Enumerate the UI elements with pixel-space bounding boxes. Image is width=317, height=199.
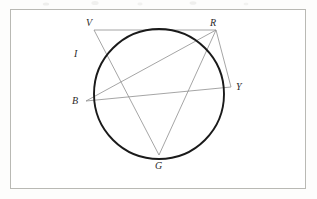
vertex-label-b: B <box>72 96 78 106</box>
vertex-label-v: V <box>86 18 92 28</box>
chord-ry <box>216 30 231 87</box>
page-canvas: VRBYGI <box>0 0 317 199</box>
vertex-label-y: Y <box>236 82 242 92</box>
vertex-label-r: R <box>210 18 216 28</box>
chord-vg <box>94 30 159 155</box>
arc-label-i: I <box>74 49 77 59</box>
vertex-label-g: G <box>155 161 162 171</box>
